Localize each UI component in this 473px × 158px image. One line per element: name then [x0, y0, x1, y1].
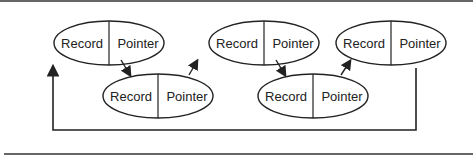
list-node: RecordPointer	[336, 21, 446, 65]
record-label: Record	[110, 89, 152, 104]
pointer-label: Pointer	[399, 36, 441, 51]
list-node: RecordPointer	[258, 74, 368, 118]
link-arrow	[189, 61, 197, 75]
record-label: Record	[61, 36, 103, 51]
pointer-label: Pointer	[117, 36, 159, 51]
record-label: Record	[265, 89, 307, 104]
pointer-label: Pointer	[272, 36, 314, 51]
list-node: RecordPointer	[103, 74, 213, 118]
pointer-label: Pointer	[166, 89, 208, 104]
list-node: RecordPointer	[209, 21, 319, 65]
list-node: RecordPointer	[54, 21, 164, 65]
linked-list-diagram: RecordPointerRecordPointerRecordPointerR…	[0, 0, 473, 158]
record-label: Record	[343, 36, 385, 51]
link-arrow	[341, 61, 350, 75]
pointer-label: Pointer	[321, 89, 363, 104]
record-label: Record	[216, 36, 258, 51]
